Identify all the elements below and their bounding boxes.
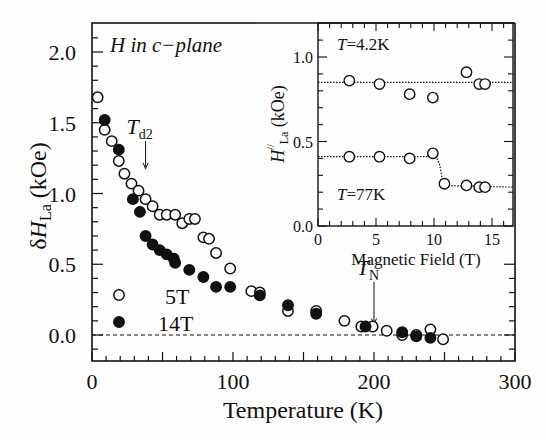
y-tick-label: 2.0 [49,40,77,65]
data-point-5t [99,125,109,135]
inset-point-77k [428,148,438,158]
x-axis-label: Temperature (K) [223,397,383,423]
inset-point-77k [461,180,471,190]
data-point-14t [99,115,109,125]
y-tick-label: 1.0 [49,182,77,207]
inset-y-tick-label: 0.5 [293,134,313,151]
inset-label-77k: T=77K [337,185,386,204]
legend-marker-14t [114,317,124,327]
data-point-5t [225,263,235,273]
inset-y-tick-label: 0.0 [293,218,313,235]
data-point-14t [211,282,221,292]
inset-point-77k [439,179,449,189]
legend-label-5t: 5T [165,284,190,309]
data-point-14t [135,207,145,217]
data-point-5t [211,248,221,258]
td2-label: Td2 [126,114,152,142]
data-point-14t [360,321,370,331]
data-point-14t [198,272,208,282]
data-point-5t [114,156,124,166]
data-point-5t [92,92,102,102]
legend-marker-5t [114,290,124,300]
data-point-14t [128,194,138,204]
data-point-14t [225,282,235,292]
x-tick-label: 200 [358,369,391,394]
inset-x-axis-label: Magnetic Field (T) [351,250,480,269]
figure: 01002003000.00.51.01.52.0Temperature (K)… [0,0,546,440]
data-point-5t [381,326,391,336]
inset-x-tick-label: 5 [372,231,380,248]
data-point-14t [397,327,407,337]
inset-point-4k [428,92,438,102]
data-point-5t [438,334,448,344]
inset-point-4k [480,79,490,89]
inset-label-4k: T=4.2K [337,35,390,54]
data-point-5t [204,234,214,244]
inset-point-4k [404,89,414,99]
data-point-5t [339,316,349,326]
inset-plot: 0510150.00.51.0Magnetic Field (T)H//La (… [256,18,516,269]
x-tick-label: 100 [217,369,250,394]
data-point-14t [255,290,265,300]
data-point-14t [184,265,194,275]
inset-point-77k [374,152,384,162]
x-tick-label: 300 [499,369,532,394]
inset-point-4k [344,75,354,85]
data-point-14t [283,300,293,310]
data-point-5t [119,168,129,178]
inset-x-tick-label: 0 [314,231,322,248]
y-tick-label: 1.5 [49,111,77,136]
inset-point-4k [461,67,471,77]
data-point-14t [311,309,321,319]
data-point-14t [411,331,421,341]
y-tick-label: 0.5 [49,252,77,277]
data-point-14t [170,258,180,268]
legend-label-14t: 14T [158,311,194,336]
x-tick-label: 0 [87,369,98,394]
condition-label: H in c−plane [109,33,222,57]
data-point-14t [425,333,435,343]
y-tick-label: 0.0 [49,323,77,348]
inset-point-77k [344,152,354,162]
inset-y-tick-label: 1.0 [293,49,313,66]
inset-point-77k [480,182,490,192]
inset-point-4k [374,79,384,89]
inset-x-tick-label: 10 [426,231,442,248]
y-axis-label: δHLa (kOe) [25,142,54,250]
inset-point-77k [404,153,414,163]
data-point-5t [190,214,200,224]
data-point-14t [114,144,124,154]
inset-x-tick-label: 15 [484,231,500,248]
inset-y-axis-label: H//La (kOe) [265,85,291,164]
